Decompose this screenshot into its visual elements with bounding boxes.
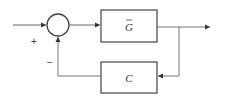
minus-sign: − xyxy=(47,57,53,68)
feedback-branch-line xyxy=(158,27,179,76)
forward-block-label: G xyxy=(125,21,133,33)
summing-junction xyxy=(47,14,69,36)
plus-sign: + xyxy=(31,36,37,47)
feedback-return-line xyxy=(58,37,101,76)
block-diagram: G C + − xyxy=(0,0,225,102)
feedback-block-label: C xyxy=(125,72,133,84)
